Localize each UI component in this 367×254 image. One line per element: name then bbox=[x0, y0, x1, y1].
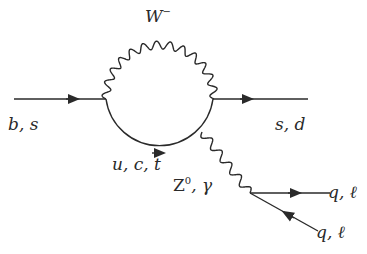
incoming-label: b, s bbox=[8, 116, 38, 133]
w-boson-wavy-arc bbox=[102, 41, 217, 99]
final-lower-label: q, ℓ bbox=[316, 224, 345, 241]
neutral-boson-label: Z0, γ bbox=[173, 177, 212, 194]
loop-quark-arc bbox=[106, 99, 213, 146]
final-lower-arrow-icon bbox=[287, 214, 294, 218]
w-boson-label: W− bbox=[145, 8, 171, 25]
final-upper-label: q, ℓ bbox=[328, 184, 357, 201]
final-lower-fermion-line bbox=[250, 193, 318, 231]
loop-quarks-label: u, c, t bbox=[112, 156, 161, 173]
outgoing-label: s, d bbox=[275, 116, 305, 133]
diagram-lines bbox=[0, 0, 367, 254]
feynman-diagram: W− b, s s, d u, c, t Z0, γ q, ℓ q, ℓ bbox=[0, 0, 367, 254]
